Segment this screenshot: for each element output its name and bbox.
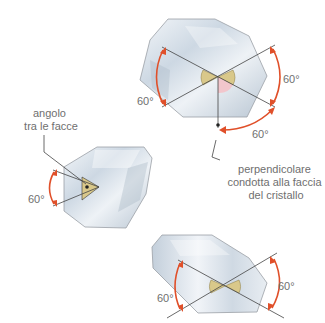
- bottom-crystal: 60° 60°: [152, 235, 295, 318]
- angle-label: 60°: [28, 193, 45, 205]
- angle-label: 60°: [157, 292, 174, 304]
- angle-label: 60°: [278, 280, 295, 292]
- crystal-diagram: 60° 60° 60° perpendicolare condotta alla…: [0, 0, 325, 323]
- callout-label: angolo tra le facce: [24, 107, 78, 132]
- left-crystal: 60° angolo tra le facce: [24, 107, 152, 228]
- angle-arc: [273, 49, 280, 104]
- perpendicular-label: perpendicolare condotta alla faccia del …: [227, 163, 324, 201]
- angle-label: 60°: [137, 95, 154, 107]
- top-crystal: 60° 60° 60°: [137, 19, 300, 140]
- angle-label: 60°: [283, 73, 300, 85]
- angle-arc: [50, 172, 55, 204]
- angle-label: 60°: [252, 128, 269, 140]
